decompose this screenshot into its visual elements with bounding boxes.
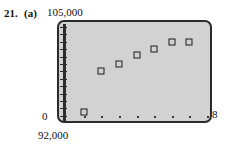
x-axis-tick [154,116,156,118]
y-axis-line [63,24,66,121]
y-axis-tick [60,94,67,95]
y-axis-tick [60,57,67,58]
x-axis-tick [189,116,191,118]
data-point [115,61,122,68]
y-axis-tick [60,101,67,102]
y-axis-tick [60,42,67,43]
problem-number: 21. [4,7,18,19]
y-axis-tick [60,108,67,109]
x-axis-tick [101,116,103,118]
data-point [80,109,87,116]
data-point [133,52,140,59]
y-axis-origin-label: 0 [42,110,48,122]
x-axis-max-label: 8 [212,108,218,120]
x-axis-tick [119,116,121,118]
data-point [168,38,175,45]
x-axis-tick [207,116,209,118]
y-axis-tick [60,79,67,80]
scatter-plot-figure: 21. (a) 105,000 0 92,000 8 [0,0,226,147]
y-axis-min-label: 92,000 [38,129,68,141]
y-axis-tick [60,71,67,72]
y-axis-tick [60,64,67,65]
y-axis-tick [60,49,67,50]
data-point [98,68,105,75]
x-axis-tick [137,116,139,118]
data-point [186,38,193,45]
y-axis-tick [60,116,67,117]
y-axis-tick [60,34,67,35]
problem-part-label: (a) [24,7,37,19]
calculator-screen [57,20,212,123]
y-axis-tick [60,86,67,87]
x-axis-tick [172,116,174,118]
x-axis-tick [84,116,86,118]
plot-area [59,22,210,121]
data-point [151,46,158,53]
y-axis-tick [60,27,67,28]
y-axis-max-label: 105,000 [47,6,83,18]
